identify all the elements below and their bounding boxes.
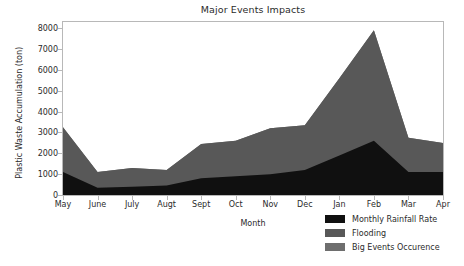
legend-item[interactable]: Monthly Rainfall Rate [325,212,463,226]
y-tick-label: 1000 [12,170,58,179]
legend-swatch-icon [325,215,345,223]
chart-legend: Monthly Rainfall RateFloodingBig Events … [325,212,463,254]
y-tick-label: 7000 [12,45,58,54]
chart-figure: Major Events Impacts Plastic Waste Accum… [0,0,464,266]
y-axis-tick-labels: 010002000300040005000600070008000 [8,0,58,266]
legend-swatch-icon [325,243,345,251]
legend-item[interactable]: Big Events Occurence [325,240,463,254]
legend-label: Flooding [352,229,386,238]
y-tick-label: 6000 [12,65,58,74]
y-tick-label: 5000 [12,86,58,95]
legend-swatch-icon [325,229,345,237]
stacked-area-plot [63,22,443,195]
y-tick-label: 2000 [12,149,58,158]
legend-label: Big Events Occurence [352,243,440,252]
y-tick-label: 0 [12,191,58,200]
y-tick-label: 3000 [12,128,58,137]
plot-area [62,21,444,196]
chart-title: Major Events Impacts [62,4,444,15]
y-tick-label: 8000 [12,24,58,33]
x-tick-label: Apr [419,200,464,209]
legend-label: Monthly Rainfall Rate [352,215,437,224]
y-tick-label: 4000 [12,107,58,116]
legend-item[interactable]: Flooding [325,226,463,240]
